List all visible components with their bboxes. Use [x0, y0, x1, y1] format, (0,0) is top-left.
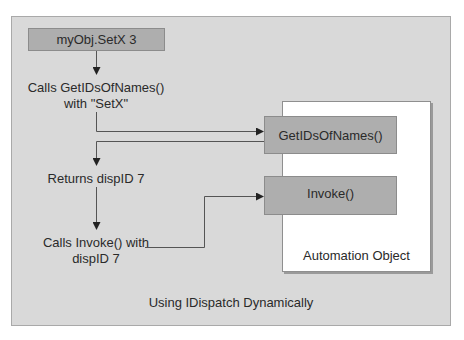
arrow-to-getidsofnames — [97, 112, 264, 132]
arrow-to-invoke — [145, 197, 263, 248]
connector-lines — [0, 0, 464, 340]
arrow-return-dispid — [97, 142, 265, 166]
